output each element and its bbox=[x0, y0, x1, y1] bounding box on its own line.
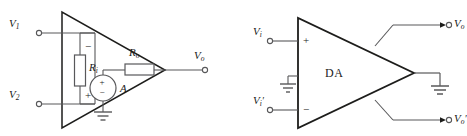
right-input-wire-vi bbox=[267, 38, 298, 43]
label-right-input-vi: Vi bbox=[253, 26, 262, 38]
right-da-triangle bbox=[298, 18, 414, 128]
label-input-resistor-ri: Ri bbox=[89, 62, 98, 74]
left-ground-symbol bbox=[94, 112, 112, 120]
right-input-ground bbox=[280, 76, 298, 92]
sign-ri-minus: − bbox=[85, 41, 91, 52]
right-output-tap-bottom bbox=[375, 100, 452, 123]
label-output-resistor-ro: Ro bbox=[129, 47, 139, 59]
sign-source-minus: − bbox=[100, 88, 105, 97]
label-input-v2: V2 bbox=[9, 89, 19, 101]
label-right-output-vo-prime: Vo′ bbox=[454, 113, 467, 125]
right-output-tap-top bbox=[375, 22, 452, 46]
label-output-vo: Vo bbox=[194, 50, 204, 62]
label-right-output-vo: Vo bbox=[454, 18, 464, 30]
left-output-wire bbox=[165, 67, 208, 72]
sign-source-plus: + bbox=[100, 78, 105, 87]
label-source-gain-a: A bbox=[120, 83, 127, 94]
label-input-v1: V1 bbox=[9, 18, 19, 30]
label-right-input-vi-prime: Vi′ bbox=[253, 95, 264, 107]
right-input-wire-vi-prime bbox=[267, 107, 298, 112]
sign-ri-plus: + bbox=[85, 90, 91, 101]
sign-da-minus: − bbox=[303, 104, 309, 115]
right-output-ground bbox=[414, 73, 449, 94]
label-da-block: DA bbox=[325, 67, 343, 79]
sign-da-plus: + bbox=[303, 35, 309, 46]
